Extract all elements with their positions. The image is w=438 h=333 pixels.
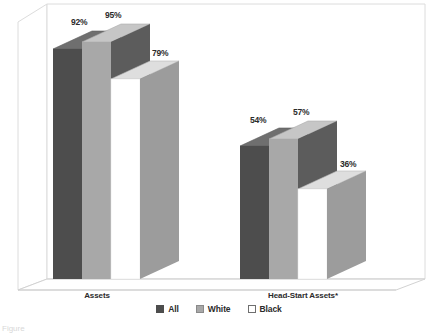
data-label-headstart-black: 36% [340, 159, 356, 169]
bar-front-face [82, 42, 111, 279]
bar-headstart-black [298, 171, 366, 279]
legend-swatch-icon-all [156, 305, 164, 313]
legend-item-white[interactable]: White [196, 304, 231, 314]
data-label-assets-black: 79% [152, 48, 168, 58]
data-label-assets-all: 92% [71, 17, 87, 27]
bar-front-face [298, 189, 327, 279]
bar-front-face [240, 146, 269, 279]
clipped-caption-fragment: Figure [2, 324, 25, 333]
category-label-assets: Assets [62, 291, 132, 300]
legend-item-all[interactable]: All [156, 304, 179, 314]
bar-front-face [269, 139, 298, 279]
bar-front-face [53, 49, 82, 279]
legend: All White Black [0, 304, 438, 314]
legend-label-white: White [208, 304, 231, 314]
data-label-headstart-white: 57% [293, 107, 309, 117]
legend-swatch-icon-white [196, 305, 204, 313]
bar-front-face [111, 79, 140, 279]
category-label-head-start-assets: Head-Start Assets* [240, 291, 366, 300]
legend-label-all: All [168, 304, 179, 314]
bar-assets-black [111, 61, 179, 279]
bar-side-face [140, 61, 179, 279]
legend-item-black[interactable]: Black [248, 304, 282, 314]
data-label-assets-white: 95% [105, 10, 121, 20]
legend-swatch-icon-black [248, 305, 256, 313]
bar-side-face [327, 171, 366, 279]
legend-label-black: Black [260, 304, 282, 314]
data-label-headstart-all: 54% [250, 115, 266, 125]
